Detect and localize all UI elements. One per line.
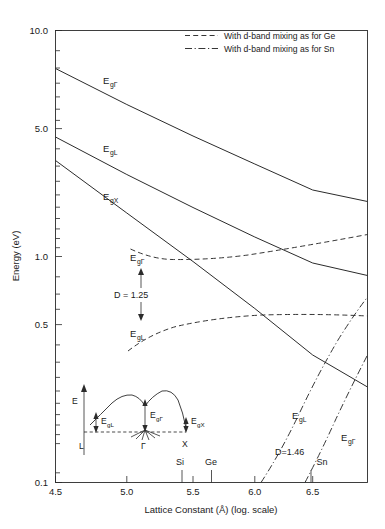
legend: With d-band mixing as for Ge With d-band… [185,31,336,54]
curve-eg-gamma-dashed [131,235,368,260]
legend-label-sn: With d-band mixing as for Sn [224,44,335,54]
curve-label-base: E [130,328,136,339]
inset-gap-egl-sub: gL [107,421,114,428]
curve-label-sub: gΓ [348,438,356,446]
annotation-d-gap-ge: D = 1.25 [114,268,148,321]
arrow-up-head [138,268,144,275]
curve-label-sub: gL [137,334,145,342]
curve-label-base: E [130,252,136,263]
x-tick-label-65: 6.5 [306,486,319,497]
y-tick-label-10: 10.0 [30,25,49,36]
curve-label-sub: gX [110,197,119,205]
y-tick-label-05: 0.5 [35,319,48,330]
element-marker-si-label: Si [176,457,184,467]
legend-entry-sn: With d-band mixing as for Sn [185,44,335,54]
curve-eg-gamma-dashdot [305,355,368,483]
curve-eg-gamma-solid [56,69,368,202]
x-axis-ticks [56,476,313,483]
x-tick-label-50: 5.0 [120,486,133,497]
curve-label-base: E [292,410,298,421]
curve-label-sub: gΓ [137,258,145,266]
plot-frame [56,31,368,483]
element-marker-si: Si [176,457,184,483]
curve-label-eg-x-solid: E gX [103,191,119,205]
annotation-d-gap-sn-text: D=1.46 [275,447,304,457]
curve-label-base: E [103,143,109,154]
inset-band-diagram: E L Γ X E gL E [72,384,205,455]
y-axis-minor-ticks [56,51,61,473]
inset-e-axis-label: E [72,396,78,406]
inset-point-l-label: L [79,441,84,451]
curve-label-base: E [103,75,109,86]
inset-gap-egl: E gL [93,412,114,433]
y-tick-label-1: 1.0 [35,251,48,262]
curve-eg-l-dashed [128,314,368,351]
inset-gap-egx-sub: gX [197,421,205,428]
curve-label-eg-l-solid: E gL [103,143,118,157]
y-tick-label-5: 5.0 [35,123,48,134]
annotation-d-gap-ge-text: D = 1.25 [114,290,148,300]
curve-label-base: E [103,191,109,202]
band-gap-vs-lattice-constant-chart: 10.0 5.0 1.0 0.5 0.1 Energy (eV) 4.5 5.0… [0,0,385,529]
curve-label-eg-l-dashdot: E gL [292,410,307,424]
arrow-down-head [138,314,144,321]
element-marker-ge: Ge [205,457,217,483]
element-marker-ge-label: Ge [205,457,217,467]
series-solid-group [56,69,368,388]
curve-label-eg-gamma-solid: E gΓ [103,75,118,89]
inset-gap-egx: E gX [183,416,204,433]
curve-label-base: E [341,432,347,443]
x-tick-label-60: 6.0 [248,486,261,497]
element-marker-sn: Sn [311,457,328,483]
legend-entry-ge: With d-band mixing as for Ge [185,31,336,41]
x-tick-label-45: 4.5 [49,486,62,497]
curve-label-eg-l-dashed: E gL [130,328,145,342]
series-dashed-group [128,235,368,352]
curve-eg-l-solid [56,137,368,276]
curve-label-eg-gamma-dashdot: E gΓ [341,432,356,446]
curve-label-sub: gΓ [110,81,118,89]
inset-gap-eggamma-sub: gΓ [156,415,163,422]
curve-label-sub: gL [110,149,118,157]
x-tick-label-55: 5.5 [186,486,199,497]
curve-label-sub: gL [299,416,307,424]
element-marker-sn-label: Sn [316,457,327,467]
x-axis-title: Lattice Constant (Å) (log. scale) [144,504,277,515]
inset-gamma-fan [131,430,160,440]
inset-point-x-label: X [182,439,188,449]
legend-label-ge: With d-band mixing as for Ge [224,31,336,41]
y-axis-title: Energy (eV) [10,231,21,282]
inset-e-axis-arrow [81,384,87,392]
inset-gap-eggamma: E gΓ [142,399,163,432]
y-tick-label-01: 0.1 [35,477,48,488]
inset-point-gamma-label: Γ [141,441,146,451]
